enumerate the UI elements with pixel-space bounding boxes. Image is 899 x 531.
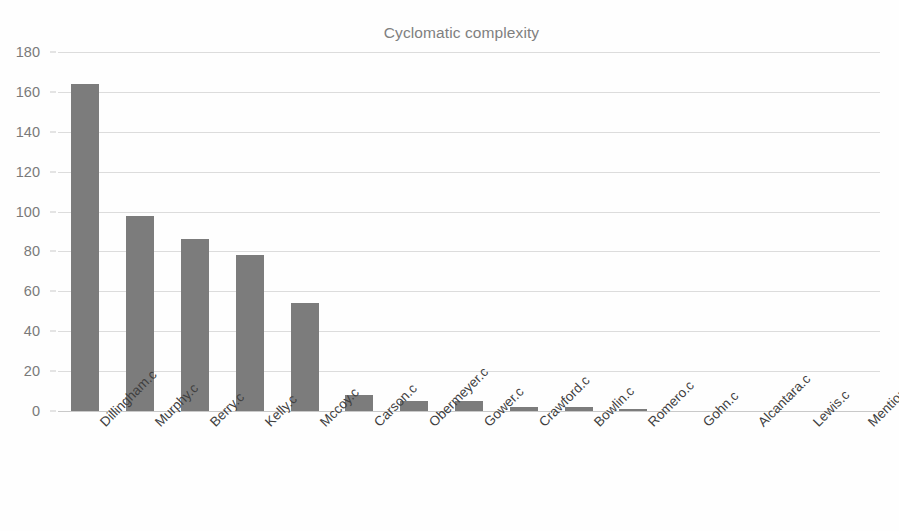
y-tick-label: 0 (32, 403, 40, 419)
y-tick-mark (50, 371, 56, 372)
bar[interactable] (71, 84, 99, 411)
x-tick-label: Murphy.c (152, 419, 163, 430)
y-tick-mark (50, 131, 56, 132)
x-tick-label: Gower.c (481, 419, 492, 430)
x-tick-label: Lewis.c (810, 419, 821, 430)
x-tick-label: Carson.c (371, 419, 382, 430)
x-tick-label: Obermeyer.c (426, 419, 437, 430)
y-axis: 020406080100120140160180 (0, 52, 50, 411)
x-axis: Dillingham.cMurphy.cBerry.cKelly.cMccoy.… (58, 411, 880, 531)
y-tick-mark (50, 211, 56, 212)
x-tick-label: Bowlin.c (591, 419, 602, 430)
y-tick-mark (50, 52, 56, 53)
x-tick-label: Gohn.c (700, 419, 711, 430)
bar[interactable] (291, 303, 319, 411)
y-tick-mark (50, 251, 56, 252)
y-tick-label: 20 (24, 363, 40, 379)
x-tick-label: Crawford.c (536, 419, 547, 430)
y-tick-mark (50, 171, 56, 172)
y-tick-label: 120 (16, 164, 40, 180)
y-tick-label: 180 (16, 44, 40, 60)
x-tick-label: Alcantara.c (755, 419, 766, 430)
x-tick-label: Mccoy.c (317, 419, 328, 430)
chart-title: Cyclomatic complexity (0, 24, 899, 42)
y-tick-mark (50, 411, 56, 412)
y-tick-mark (50, 91, 56, 92)
bars-layer (58, 52, 880, 411)
y-tick-label: 140 (16, 124, 40, 140)
y-tick-label: 160 (16, 84, 40, 100)
x-tick-label: Dillingham.c (97, 419, 108, 430)
x-tick-label: Kelly.c (262, 419, 273, 430)
y-tick-label: 40 (24, 323, 40, 339)
x-tick-label: Romero.c (645, 419, 656, 430)
bar[interactable] (236, 255, 264, 411)
y-tick-label: 100 (16, 204, 40, 220)
y-tick-mark (50, 291, 56, 292)
x-tick-label: Berry.c (207, 419, 218, 430)
bar-chart: Cyclomatic complexity 020406080100120140… (0, 0, 899, 531)
y-tick-mark (50, 331, 56, 332)
y-tick-label: 60 (24, 283, 40, 299)
y-tick-label: 80 (24, 243, 40, 259)
x-tick-label: Mention.c (865, 419, 876, 430)
